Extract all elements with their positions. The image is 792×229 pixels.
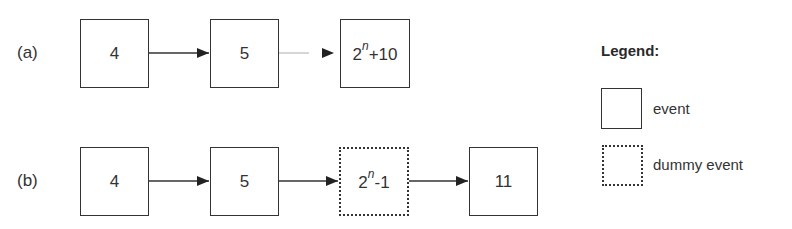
arrowhead-a-2 [322, 48, 334, 58]
event-node: 5 [210, 147, 279, 216]
node-label: 5 [240, 172, 249, 192]
row-a-label: (a) [17, 43, 38, 63]
legend-title: Legend: [601, 42, 659, 59]
event-node: 11 [469, 147, 538, 216]
row-b-label: (b) [17, 171, 38, 191]
event-node: 4 [80, 147, 149, 216]
legend-label-dummy-event: dummy event [653, 156, 743, 173]
event-node: 2n+10 [340, 19, 410, 88]
node-label: 4 [110, 44, 119, 64]
event-node: 4 [80, 19, 149, 88]
legend-label-event: event [653, 100, 690, 117]
node-label: 2n-1 [358, 170, 389, 193]
node-label: 4 [110, 172, 119, 192]
node-label: 5 [240, 44, 249, 64]
event-node: 5 [210, 19, 279, 88]
node-label: 11 [495, 172, 513, 192]
node-label: 2n+10 [353, 42, 398, 65]
dummy-event-node: 2n-1 [339, 147, 409, 216]
legend-solid-box-icon [601, 88, 642, 129]
legend-dotted-box-icon [602, 145, 643, 186]
